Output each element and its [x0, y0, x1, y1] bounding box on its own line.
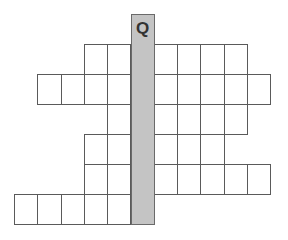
grid-cell[interactable]: [200, 74, 224, 105]
grid-cell[interactable]: [107, 164, 131, 195]
key-column: Q: [131, 14, 155, 225]
grid-cell[interactable]: [84, 164, 108, 195]
grid-cell[interactable]: [200, 104, 224, 135]
grid-cell[interactable]: [154, 74, 178, 105]
grid-cell[interactable]: [177, 134, 201, 165]
grid-cell[interactable]: [224, 74, 248, 105]
grid-cell[interactable]: [224, 44, 248, 75]
grid-cell[interactable]: [200, 134, 224, 165]
grid-cell[interactable]: [107, 74, 131, 105]
grid-cell[interactable]: [14, 194, 38, 225]
grid-cell[interactable]: [37, 194, 61, 225]
grid-cell[interactable]: [107, 194, 131, 225]
crossword-grid: Q: [0, 0, 288, 240]
grid-cell[interactable]: [61, 74, 85, 105]
grid-cell[interactable]: [247, 74, 271, 105]
grid-cell[interactable]: [84, 74, 108, 105]
grid-cell[interactable]: [154, 44, 178, 75]
grid-cell[interactable]: [84, 134, 108, 165]
grid-cell[interactable]: [107, 134, 131, 165]
grid-cell[interactable]: [107, 104, 131, 135]
grid-cell[interactable]: [154, 104, 178, 135]
grid-cell[interactable]: [224, 104, 248, 135]
grid-cell[interactable]: [84, 44, 108, 75]
grid-cell[interactable]: [200, 44, 224, 75]
grid-cell[interactable]: [177, 44, 201, 75]
grid-cell[interactable]: [224, 164, 248, 195]
grid-cell[interactable]: [84, 194, 108, 225]
grid-cell[interactable]: [247, 164, 271, 195]
key-letter: Q: [132, 19, 154, 39]
grid-cell[interactable]: [200, 164, 224, 195]
grid-cell[interactable]: [177, 104, 201, 135]
grid-cell[interactable]: [107, 44, 131, 75]
grid-cell[interactable]: [177, 74, 201, 105]
grid-cell[interactable]: [37, 74, 61, 105]
grid-cell[interactable]: [154, 134, 178, 165]
grid-cell[interactable]: [154, 164, 178, 195]
grid-cell[interactable]: [177, 164, 201, 195]
grid-cell[interactable]: [61, 194, 85, 225]
